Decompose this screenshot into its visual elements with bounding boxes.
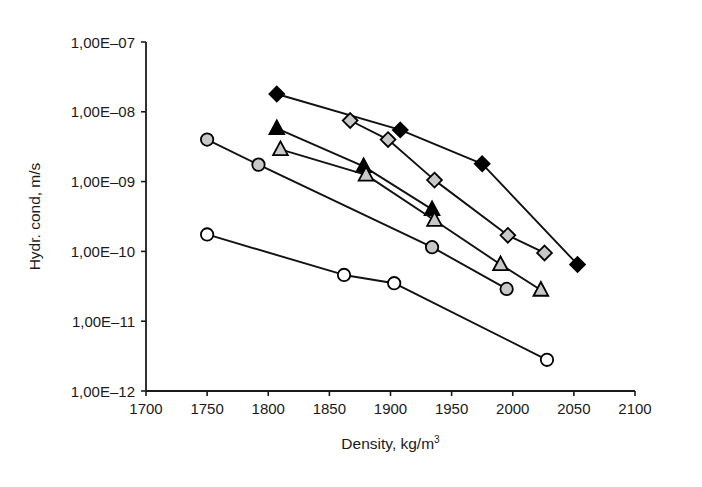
data-series-open-circle [201, 228, 553, 366]
axes [146, 42, 635, 391]
chart-plot-area: 1,00E–071,00E–081,00E–091,00E–101,00E–11… [0, 0, 702, 487]
x-axis-tick-label: 2050 [557, 400, 590, 417]
x-axis-title-base: Density, kg/m [341, 435, 434, 452]
data-point-marker [273, 141, 288, 155]
chart-figure: 1,00E–071,00E–081,00E–091,00E–101,00E–11… [0, 0, 702, 487]
data-point-marker [343, 113, 358, 128]
data-point-marker [393, 123, 408, 138]
x-axis-tick-label: 1750 [190, 400, 223, 417]
y-axis-tick-label: 1,00E–11 [72, 313, 135, 330]
y-axis-tick-label: 1,00E–09 [71, 173, 135, 190]
data-point-marker [534, 282, 549, 296]
data-point-marker [269, 87, 284, 102]
axis-ticks [141, 42, 635, 396]
data-point-marker [426, 241, 438, 253]
data-point-marker [500, 228, 515, 243]
y-axis-tick-label: 1,00E–12 [71, 383, 135, 400]
series-line [277, 128, 432, 209]
data-point-marker [541, 354, 553, 366]
data-series-group [201, 87, 585, 366]
x-axis-tick-label: 2100 [618, 400, 651, 417]
data-point-marker [500, 283, 512, 295]
y-axis-tick-label: 1,00E–08 [71, 103, 135, 120]
data-series-gray-triangle [273, 141, 548, 295]
y-axis-title: Hydr. cond, m/s [26, 162, 43, 270]
x-axis-tick-label: 1950 [435, 400, 468, 417]
y-axis-tick-label: 1,00E–07 [71, 34, 135, 51]
data-point-marker [201, 133, 213, 145]
x-axis-tick-label: 1700 [129, 400, 162, 417]
x-axis-title: Density, kg/m3 [341, 434, 440, 452]
x-axis-tick-label: 1900 [374, 400, 407, 417]
data-point-marker [388, 277, 400, 289]
x-axis-tick-label: 2000 [496, 400, 529, 417]
series-line [207, 234, 547, 359]
data-point-marker [201, 228, 213, 240]
x-axis-tick-label: 1850 [313, 400, 346, 417]
data-point-marker [493, 256, 508, 270]
x-axis-title-superscript: 3 [434, 434, 440, 445]
data-point-marker [425, 201, 440, 215]
y-axis-tick-label: 1,00E–10 [71, 243, 135, 260]
series-line [350, 121, 544, 253]
x-axis-tick-label: 1800 [252, 400, 285, 417]
data-point-marker [338, 269, 350, 281]
axis-tick-labels: 1,00E–071,00E–081,00E–091,00E–101,00E–11… [71, 34, 652, 418]
data-point-marker [537, 246, 552, 261]
data-point-marker [269, 120, 284, 134]
data-point-marker [252, 158, 264, 170]
data-series-gray-diamond [343, 113, 552, 260]
